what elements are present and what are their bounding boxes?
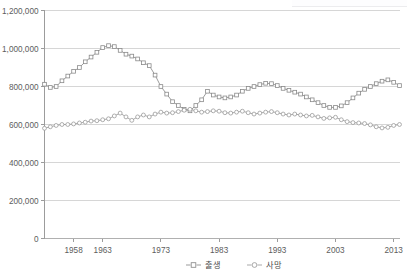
data-point-marker <box>363 122 367 126</box>
data-point-marker <box>118 111 122 115</box>
data-point-marker <box>141 113 145 117</box>
data-point-marker <box>392 124 396 128</box>
data-point-marker <box>211 109 215 113</box>
data-point-marker <box>165 92 169 96</box>
data-point-marker <box>188 107 192 111</box>
data-point-marker <box>60 79 64 83</box>
data-point-marker <box>270 110 274 114</box>
data-point-marker <box>130 118 134 122</box>
data-point-marker <box>380 79 384 83</box>
data-point-marker <box>124 52 128 56</box>
data-point-marker <box>299 113 303 117</box>
data-point-marker <box>136 115 140 119</box>
data-point-marker <box>101 46 105 50</box>
data-point-marker <box>398 123 402 127</box>
legend-marker-circle <box>252 263 257 268</box>
data-point-marker <box>107 117 111 121</box>
data-point-marker <box>368 123 372 127</box>
y-axis-tick-label: 400,000 <box>9 159 39 168</box>
data-point-marker <box>398 84 402 88</box>
data-point-marker <box>339 118 343 122</box>
data-point-marker <box>369 85 373 89</box>
legend-marker-square <box>191 263 196 268</box>
data-point-marker <box>264 81 268 85</box>
data-point-marker <box>322 116 326 120</box>
data-point-marker <box>171 111 175 115</box>
data-point-marker <box>241 89 245 93</box>
data-point-marker <box>299 92 303 96</box>
data-point-marker <box>287 88 291 92</box>
data-point-marker <box>171 100 175 104</box>
data-point-marker <box>147 115 151 119</box>
data-point-marker <box>66 74 70 78</box>
data-point-marker <box>112 114 116 118</box>
line-chart-svg: 0200,000400,000600,000800,0001,000,0001,… <box>0 0 407 274</box>
x-axis-tick-label: 1963 <box>94 246 113 255</box>
data-point-marker <box>334 115 338 119</box>
data-point-marker <box>194 109 198 113</box>
data-point-marker <box>136 57 140 61</box>
data-point-marker <box>176 110 180 114</box>
data-point-marker <box>229 111 233 115</box>
data-point-marker <box>159 110 163 114</box>
data-point-marker <box>54 85 58 89</box>
data-point-marker <box>258 111 262 115</box>
data-point-marker <box>363 88 367 92</box>
x-axis: 1958196319731983199320032013 <box>45 239 404 255</box>
data-point-marker <box>194 104 198 108</box>
data-point-marker <box>83 60 87 64</box>
data-point-marker <box>95 50 99 54</box>
data-point-marker <box>345 120 349 124</box>
y-axis: 0200,000400,000600,000800,0001,000,0001,… <box>2 7 44 244</box>
data-point-marker <box>118 49 122 53</box>
data-point-marker <box>147 64 151 68</box>
data-point-marker <box>217 95 221 99</box>
data-point-marker <box>165 111 169 115</box>
data-point-marker <box>334 106 338 110</box>
data-point-marker <box>240 109 244 113</box>
y-axis-tick-label: 1,200,000 <box>2 7 39 16</box>
data-point-marker <box>153 112 157 116</box>
data-point-marker <box>89 119 93 123</box>
data-point-marker <box>281 87 285 91</box>
data-point-marker <box>153 73 157 77</box>
data-point-marker <box>48 125 52 129</box>
data-point-marker <box>211 93 215 97</box>
data-point-marker <box>310 113 314 117</box>
data-point-marker <box>246 111 250 115</box>
data-point-marker <box>322 104 326 108</box>
data-point-marker <box>89 55 93 59</box>
data-point-marker <box>392 80 396 84</box>
data-point-marker <box>252 112 256 116</box>
data-point-marker <box>305 95 309 99</box>
chart-legend: 출생사망 <box>186 260 282 270</box>
data-point-marker <box>275 111 279 115</box>
data-point-marker <box>328 106 332 110</box>
data-point-marker <box>200 110 204 114</box>
data-point-marker <box>83 120 87 124</box>
data-point-marker <box>95 119 99 123</box>
data-point-marker <box>293 90 297 94</box>
gridlines <box>45 11 400 239</box>
data-point-marker <box>310 98 314 102</box>
data-point-marker <box>339 104 343 108</box>
data-point-marker <box>66 123 70 127</box>
data-point-marker <box>235 93 239 97</box>
x-axis-tick-label: 2003 <box>326 246 345 255</box>
data-point-marker <box>124 115 128 119</box>
data-point-marker <box>72 122 76 126</box>
x-axis-tick-label: 1958 <box>64 246 83 255</box>
data-point-marker <box>357 91 361 95</box>
legend-label: 사망 <box>266 260 282 270</box>
data-point-marker <box>130 54 134 58</box>
x-axis-tick-label: 2013 <box>385 246 404 255</box>
data-point-marker <box>345 101 349 105</box>
series-deaths <box>43 107 402 130</box>
y-axis-tick-label: 0 <box>34 235 39 244</box>
x-axis-tick-label: 1993 <box>268 246 287 255</box>
data-point-marker <box>112 45 116 49</box>
data-point-marker <box>374 82 378 86</box>
data-point-marker <box>351 96 355 100</box>
y-axis-tick-label: 1,000,000 <box>2 45 39 54</box>
data-point-marker <box>264 110 268 114</box>
